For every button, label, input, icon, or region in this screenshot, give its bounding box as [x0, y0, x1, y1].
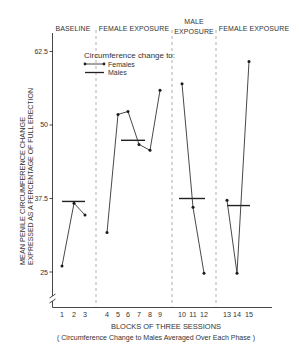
legend-label-males: Males [108, 69, 127, 76]
x-tick-label: 7 [137, 310, 141, 319]
x-axis-note: ( Circumference Change to Males Averaged… [57, 334, 255, 342]
y-axis-label-line1: MEAN PENILE CIRCUMFERENCE CHANGE [19, 116, 26, 265]
legend-females-dot-icon [84, 63, 87, 66]
x-tick-label: 3 [83, 310, 87, 319]
x-tick-label: 11 [189, 310, 196, 319]
females-data-point [226, 199, 229, 202]
females-data-point [203, 272, 206, 275]
x-tick-label: 14 [233, 310, 241, 319]
phase-header-baseline: BASELINE [55, 25, 90, 32]
females-data-point [149, 149, 152, 152]
legend-title: Circumference change to: [84, 52, 175, 60]
x-tick-label: 8 [148, 310, 152, 319]
females-data-point [236, 272, 239, 275]
x-tick-label: 13 [223, 310, 231, 319]
females-data-point [106, 231, 109, 234]
females-data-point [61, 265, 64, 268]
females-data-point [117, 113, 120, 116]
females-data-point [127, 110, 130, 113]
x-tick-label: 4 [105, 310, 109, 319]
phase-header-female-exposure-1: FEMALE EXPOSURE [99, 25, 170, 32]
x-tick-label: 1 [60, 310, 64, 319]
x-axis-label: BLOCKS OF THREE SESSIONS [111, 323, 222, 330]
females-data-point [159, 89, 162, 92]
x-tick-label: 5 [116, 310, 120, 319]
females-data-point [248, 60, 251, 63]
y-tick-label: 37.5 [34, 195, 48, 202]
y-tick-label: 62.5 [34, 48, 48, 55]
females-data-point [73, 202, 76, 205]
legend-females-dot-icon [103, 63, 106, 66]
y-tick-label: 25 [40, 269, 48, 276]
females-data-point [181, 82, 184, 85]
x-tick-label: 10 [178, 310, 186, 319]
x-tick-label: 2 [72, 310, 76, 319]
y-tick-label: 50 [40, 121, 48, 128]
phase-header-male-line2: EXPOSURE [174, 28, 214, 35]
females-data-point [84, 214, 87, 217]
chart: BASELINE FEMALE EXPOSURE MALE EXPOSURE F… [0, 0, 299, 356]
phase-header-female-exposure-2: FEMALE EXPOSURE [219, 25, 290, 32]
legend-label-females: Females [108, 61, 135, 68]
y-axis-label-line2: EXPRESSED AS A PERCENTAGE OF FULL ERECTI… [27, 88, 34, 265]
x-tick-label: 12 [200, 310, 208, 319]
x-tick-label: 15 [245, 310, 253, 319]
females-data-point [138, 143, 141, 146]
phase-header-male-line1: MALE [184, 18, 204, 25]
females-data-point [192, 206, 195, 209]
x-tick-label: 6 [126, 310, 130, 319]
x-tick-label: 9 [158, 310, 162, 319]
